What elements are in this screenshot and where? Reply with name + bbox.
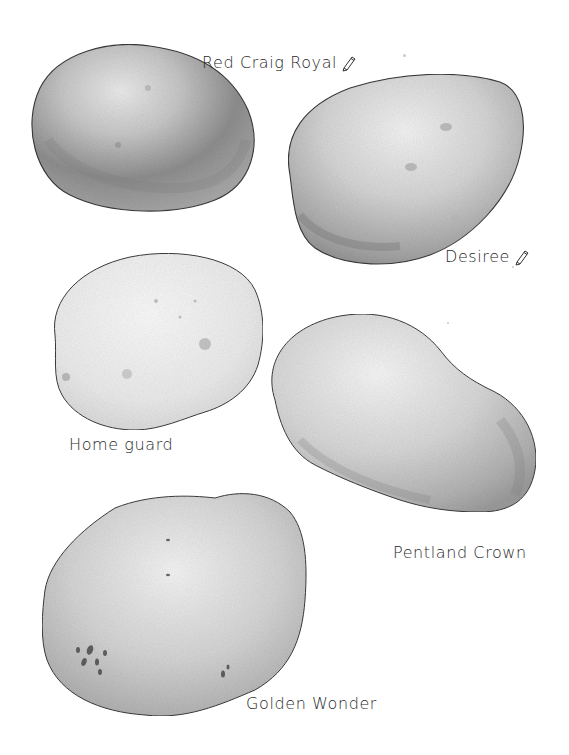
label-text: Home guard bbox=[69, 437, 173, 453]
label-home-guard: Home guard bbox=[69, 437, 173, 453]
potato-home-guard bbox=[54, 253, 262, 430]
label-text: Golden Wonder bbox=[246, 696, 377, 712]
pencil-icon bbox=[340, 54, 356, 72]
label-text: Red Craig Royal bbox=[202, 55, 337, 71]
potato-golden-wonder bbox=[42, 494, 306, 716]
label-golden-wonder: Golden Wonder bbox=[246, 696, 377, 712]
pencil-icon bbox=[513, 248, 529, 266]
stray-mark bbox=[512, 266, 514, 268]
label-red-craig-royal: Red Craig Royal bbox=[202, 54, 356, 72]
label-desiree: Desiree bbox=[445, 248, 529, 266]
label-text: Desiree bbox=[445, 249, 510, 265]
potato-desiree bbox=[288, 74, 523, 264]
potato-illustration bbox=[0, 0, 569, 755]
label-text: Pentland Crown bbox=[393, 545, 527, 561]
stray-mark bbox=[403, 54, 406, 57]
label-pentland-crown: Pentland Crown bbox=[393, 545, 527, 561]
stray-mark bbox=[447, 322, 449, 324]
potato-pentland-crown bbox=[272, 314, 536, 512]
